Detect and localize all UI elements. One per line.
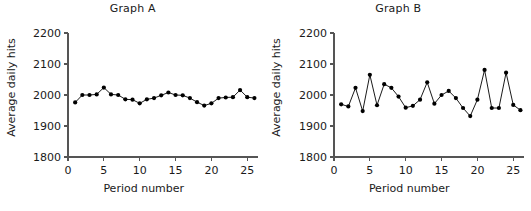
x-tick-label: 5	[366, 164, 373, 177]
data-point-marker	[417, 98, 421, 102]
data-point-marker	[252, 96, 256, 100]
data-point-marker	[109, 92, 113, 96]
data-point-marker	[123, 97, 127, 101]
data-point-marker	[87, 93, 91, 97]
x-tick-label: 0	[65, 164, 72, 177]
figure-container: Graph A Average daily hits 1800190020002…	[0, 0, 531, 211]
data-point-marker	[425, 80, 429, 84]
x-tick-label: 10	[398, 164, 412, 177]
data-point-marker	[460, 106, 464, 110]
data-point-marker	[439, 93, 443, 97]
data-point-marker	[389, 86, 393, 90]
data-point-marker	[138, 101, 142, 105]
data-point-marker	[339, 102, 343, 106]
chart-panel-graph-a: Graph A Average daily hits 1800190020002…	[0, 0, 266, 211]
x-tick-label: 10	[133, 164, 147, 177]
y-tick-label: 2000	[33, 89, 61, 102]
data-point-marker	[475, 98, 479, 102]
data-point-marker	[152, 96, 156, 100]
data-point-marker	[468, 114, 472, 118]
x-tick-label: 5	[100, 164, 107, 177]
data-point-marker	[159, 93, 163, 97]
series-line	[341, 70, 520, 116]
plot-area-graph-a: 180019002000210022000510152025	[0, 0, 265, 211]
data-point-marker	[195, 100, 199, 104]
data-point-marker	[116, 93, 120, 97]
x-tick-label: 15	[434, 164, 448, 177]
data-point-marker	[374, 103, 378, 107]
x-tick-label: 20	[204, 164, 218, 177]
data-point-marker	[482, 68, 486, 72]
y-tick-label: 2200	[33, 27, 61, 40]
data-point-marker	[410, 104, 414, 108]
y-tick-label: 1800	[299, 151, 327, 164]
x-tick-label: 15	[169, 164, 183, 177]
data-point-marker	[231, 95, 235, 99]
x-axis-label-graph-b: Period number	[294, 182, 526, 195]
data-point-marker	[511, 103, 515, 107]
x-tick-label: 20	[470, 164, 484, 177]
data-point-marker	[145, 97, 149, 101]
data-point-marker	[489, 106, 493, 110]
plot-area-graph-b: 180019002000210022000510152025	[266, 0, 531, 211]
x-tick-label: 0	[330, 164, 337, 177]
data-point-marker	[238, 88, 242, 92]
y-tick-label: 2200	[299, 27, 327, 40]
data-point-marker	[209, 101, 213, 105]
x-axis-label-graph-a: Period number	[28, 182, 260, 195]
y-tick-label: 1900	[299, 120, 327, 133]
data-point-marker	[496, 106, 500, 110]
data-point-marker	[188, 96, 192, 100]
data-point-marker	[80, 93, 84, 97]
data-point-marker	[216, 96, 220, 100]
data-point-marker	[518, 108, 522, 112]
x-tick-label: 25	[506, 164, 520, 177]
data-point-marker	[360, 109, 364, 113]
data-point-marker	[346, 104, 350, 108]
data-point-marker	[95, 92, 99, 96]
y-tick-label: 1900	[33, 120, 61, 133]
data-point-marker	[102, 85, 106, 89]
data-point-marker	[503, 71, 507, 75]
data-point-marker	[166, 90, 170, 94]
data-point-marker	[224, 95, 228, 99]
data-point-marker	[202, 103, 206, 107]
data-point-marker	[432, 102, 436, 106]
data-point-marker	[173, 93, 177, 97]
data-point-marker	[181, 93, 185, 97]
data-point-marker	[382, 82, 386, 86]
data-point-marker	[367, 73, 371, 77]
data-point-marker	[73, 100, 77, 104]
data-point-marker	[396, 94, 400, 98]
y-tick-label: 2000	[299, 89, 327, 102]
data-point-marker	[453, 96, 457, 100]
data-point-marker	[130, 98, 134, 102]
data-point-marker	[403, 106, 407, 110]
data-point-marker	[446, 89, 450, 93]
y-tick-label: 2100	[33, 58, 61, 71]
chart-panel-graph-b: Graph B Average daily hits 1800190020002…	[266, 0, 531, 211]
x-tick-label: 25	[240, 164, 254, 177]
data-point-marker	[245, 95, 249, 99]
data-point-marker	[353, 86, 357, 90]
y-tick-label: 1800	[33, 151, 61, 164]
y-tick-label: 2100	[299, 58, 327, 71]
